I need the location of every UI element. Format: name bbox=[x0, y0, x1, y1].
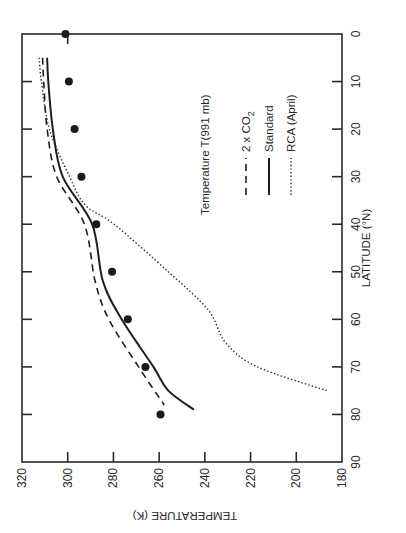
chart-canvas: 0102030405060708090 18020022024026028030… bbox=[0, 0, 406, 533]
legend-label-rca: RCA (April) bbox=[285, 94, 297, 152]
latitude-axis: 0102030405060708090 bbox=[22, 30, 363, 468]
series-standard bbox=[47, 58, 194, 410]
series-layer bbox=[39, 30, 327, 418]
x-axis-title: LATITUDE (°N) bbox=[360, 209, 372, 288]
temp-tick-label: 240 bbox=[198, 468, 212, 488]
lat-tick-label: 20 bbox=[349, 122, 363, 136]
legend-label-2xco2: 2 x CO2 bbox=[240, 111, 256, 152]
legend-label-standard: Standard bbox=[263, 105, 275, 152]
legend-title: Temperature T(991 mb) bbox=[199, 94, 211, 215]
temp-tick-label: 220 bbox=[244, 468, 258, 488]
series-rca-april- bbox=[39, 58, 327, 391]
series-2-x-co2 bbox=[43, 58, 165, 405]
lat-tick-label: 0 bbox=[349, 30, 363, 37]
temp-tick-label: 300 bbox=[61, 468, 75, 488]
lat-tick-label: 90 bbox=[349, 455, 363, 469]
lat-tick-label: 60 bbox=[349, 312, 363, 326]
y-axis-title: TEMPERATURE (K) bbox=[133, 510, 238, 522]
observed-point bbox=[77, 173, 85, 181]
temp-tick-label: 200 bbox=[289, 468, 303, 488]
observed-point bbox=[61, 30, 69, 38]
observed-point bbox=[157, 410, 165, 418]
lat-tick-label: 10 bbox=[349, 75, 363, 89]
temp-tick-label: 280 bbox=[106, 468, 120, 488]
observed-point bbox=[92, 220, 100, 228]
temp-tick-label: 260 bbox=[152, 468, 166, 488]
observed-point bbox=[71, 125, 79, 133]
legend: Temperature T(991 mb) 2 x CO2 Standard R… bbox=[199, 94, 297, 215]
lat-tick-label: 80 bbox=[349, 407, 363, 421]
observed-point bbox=[108, 268, 116, 276]
lat-tick-label: 30 bbox=[349, 170, 363, 184]
temp-tick-label: 180 bbox=[335, 468, 349, 488]
temp-tick-label: 320 bbox=[15, 468, 29, 488]
temperature-axis: 180200220240260280300320 bbox=[15, 34, 349, 488]
lat-tick-label: 70 bbox=[349, 360, 363, 374]
observed-point bbox=[65, 78, 73, 86]
observed-point bbox=[124, 315, 132, 323]
observed-point bbox=[141, 363, 149, 371]
